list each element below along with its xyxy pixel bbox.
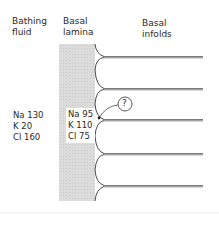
lamina-na: Na 95	[68, 109, 93, 120]
lamina-cl: Cl 75	[68, 131, 93, 142]
lamina-k: K 110	[68, 120, 93, 131]
bathing-fluid-ions: Na 130 K 20 Cl 160	[13, 110, 44, 143]
lamina-ions: Na 95 K 110 Cl 75	[66, 108, 95, 143]
question-mark: ?	[122, 98, 127, 109]
infold-membranes	[104, 57, 203, 187]
bathing-k: K 20	[13, 121, 44, 132]
bathing-cl: Cl 160	[13, 132, 44, 143]
infold-outline	[95, 44, 104, 201]
bathing-na: Na 130	[13, 110, 44, 121]
